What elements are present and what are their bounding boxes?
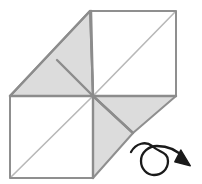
rotation-arrow-group	[131, 143, 193, 175]
figure-root	[0, 0, 202, 184]
folded-paper-diagram	[0, 0, 202, 184]
